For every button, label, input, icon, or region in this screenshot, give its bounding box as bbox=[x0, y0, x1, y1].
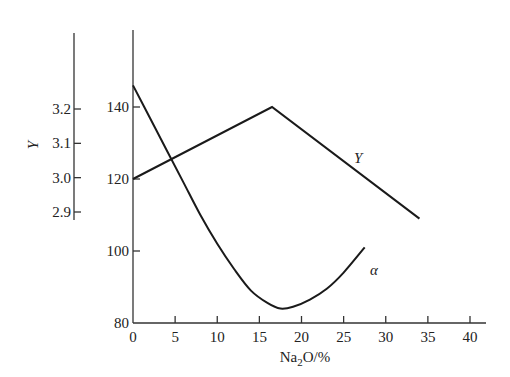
y-tick-label: 120 bbox=[107, 171, 130, 187]
x-tick-label: 5 bbox=[171, 329, 179, 345]
x-tick-label: 40 bbox=[463, 329, 478, 345]
y2-tick-label: 2.9 bbox=[52, 204, 71, 220]
x-tick-label: 0 bbox=[129, 329, 137, 345]
y2-tick-label: 3.0 bbox=[52, 170, 71, 186]
series-Y-label: Y bbox=[354, 150, 364, 166]
y-tick-label: 80 bbox=[114, 315, 129, 331]
chart: 0510152025303540801001201402.93.03.13.2 … bbox=[0, 0, 510, 377]
y2-tick-label: 3.2 bbox=[52, 101, 71, 117]
y2-axis-title: Y bbox=[25, 139, 41, 149]
x-tick-label: 25 bbox=[336, 329, 351, 345]
x-tick-label: 20 bbox=[294, 329, 309, 345]
series-alpha-label: α bbox=[370, 262, 379, 278]
y-tick-label: 140 bbox=[107, 99, 130, 115]
series-Y-line bbox=[133, 107, 419, 219]
y-tick-label: 100 bbox=[107, 243, 130, 259]
x-tick-label: 10 bbox=[210, 329, 225, 345]
labels: YNa2O/%Yα bbox=[25, 139, 379, 368]
y2-tick-label: 3.1 bbox=[52, 135, 71, 151]
x-tick-label: 35 bbox=[420, 329, 435, 345]
x-tick-label: 15 bbox=[252, 329, 267, 345]
ticks: 0510152025303540801001201402.93.03.13.2 bbox=[52, 99, 477, 345]
x-tick-label: 30 bbox=[378, 329, 393, 345]
x-axis-title: Na2O/% bbox=[280, 349, 331, 368]
